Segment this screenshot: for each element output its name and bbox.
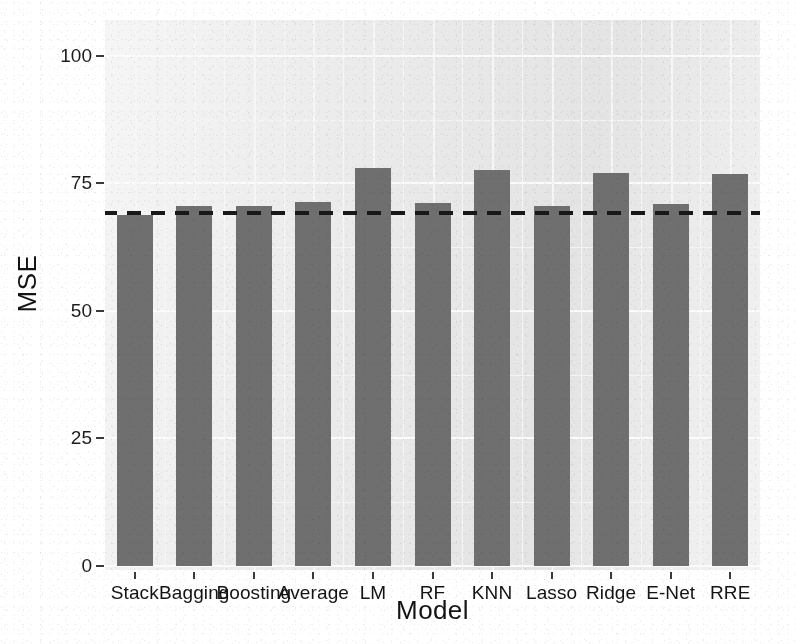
y-axis-tick-label: 75 — [71, 172, 92, 194]
y-axis-tick-mark — [96, 565, 104, 567]
gridline-minor-x — [403, 20, 404, 570]
bar-bagging — [176, 206, 212, 566]
x-axis-tick-mark — [134, 572, 136, 579]
y-axis-tick-mark — [96, 437, 104, 439]
x-axis-tick-mark — [551, 572, 553, 579]
y-axis-tick-label: 25 — [71, 427, 92, 449]
gridline-minor-x — [641, 20, 642, 570]
y-axis-tick: 100 — [60, 45, 104, 67]
y-axis-tick-mark — [96, 182, 104, 184]
gridline-minor-x — [165, 20, 166, 570]
y-axis-tick: 0 — [81, 555, 104, 577]
x-axis-title: Model — [105, 595, 760, 626]
gridline-minor-x — [522, 20, 523, 570]
bar-e-net — [653, 204, 689, 566]
y-axis-tick-label: 50 — [71, 300, 92, 322]
y-axis: 0255075100 — [48, 0, 104, 644]
bar-stack — [117, 215, 153, 566]
x-axis-tick-mark — [670, 572, 672, 579]
y-axis-tick: 75 — [71, 172, 104, 194]
bar-average — [295, 202, 331, 566]
y-axis-title-text: MSE — [13, 254, 44, 312]
plot-panel — [105, 20, 760, 570]
bar-rf — [415, 203, 451, 566]
y-axis-tick: 25 — [71, 427, 104, 449]
x-axis-tick-mark — [372, 572, 374, 579]
x-axis-tick-mark — [432, 572, 434, 579]
bar-rre — [712, 174, 748, 566]
y-axis-tick-label: 0 — [81, 555, 92, 577]
y-axis-tick-mark — [96, 310, 104, 312]
x-axis-tick-mark — [253, 572, 255, 579]
gridline-minor-x — [343, 20, 344, 570]
bar-boosting — [236, 206, 272, 566]
reference-line-dashed — [105, 211, 760, 215]
y-axis-tick-mark — [96, 55, 104, 57]
y-axis-tick-label: 100 — [60, 45, 92, 67]
bar-knn — [474, 170, 510, 566]
bar-lasso — [534, 206, 570, 566]
gridline-minor-x — [284, 20, 285, 570]
x-axis-tick-mark — [312, 572, 314, 579]
gridline-minor-x — [462, 20, 463, 570]
x-axis-tick-mark — [193, 572, 195, 579]
bar-ridge — [593, 173, 629, 566]
bar-chart-figure: MSE 0255075100 StackBaggingBoostingAvera… — [0, 0, 796, 644]
gridline-minor-x — [700, 20, 701, 570]
x-axis-tick-mark — [610, 572, 612, 579]
gridline-minor-x — [581, 20, 582, 570]
x-axis-tick-mark — [491, 572, 493, 579]
gridline-minor-x — [224, 20, 225, 570]
bar-lm — [355, 168, 391, 566]
x-axis-tick-mark — [729, 572, 731, 579]
y-axis-tick: 50 — [71, 300, 104, 322]
